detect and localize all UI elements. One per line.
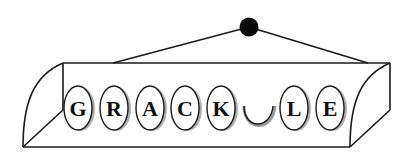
hanger-string-left <box>113 27 249 63</box>
tile-letter: K <box>212 96 229 121</box>
grackle-diagram: G R A C K <box>0 0 415 157</box>
tile-letter: R <box>106 96 123 121</box>
box-left-curve <box>23 63 63 147</box>
box-left-diagonal <box>23 110 63 147</box>
tile-letter: E <box>323 96 338 121</box>
box-right-diagonal <box>350 110 390 147</box>
tile-letter: C <box>177 96 193 121</box>
tile-a: A <box>136 86 167 131</box>
box-right-curve <box>350 63 390 147</box>
missing-tile-slot <box>244 106 275 126</box>
tile-k: K <box>207 86 238 131</box>
hanger-dot-icon <box>240 18 259 37</box>
hanger-string-right <box>249 27 368 63</box>
tile-e: E <box>316 86 347 131</box>
tile-letter: L <box>287 96 302 121</box>
tile-c: C <box>171 86 202 131</box>
tile-letter: G <box>69 96 86 121</box>
tile-g: G <box>64 86 95 131</box>
tile-row: G R A C K <box>64 86 347 131</box>
tile-r: R <box>100 86 131 131</box>
tile-letter: A <box>142 96 158 121</box>
hanger <box>113 18 368 64</box>
tile-l: L <box>280 86 311 131</box>
